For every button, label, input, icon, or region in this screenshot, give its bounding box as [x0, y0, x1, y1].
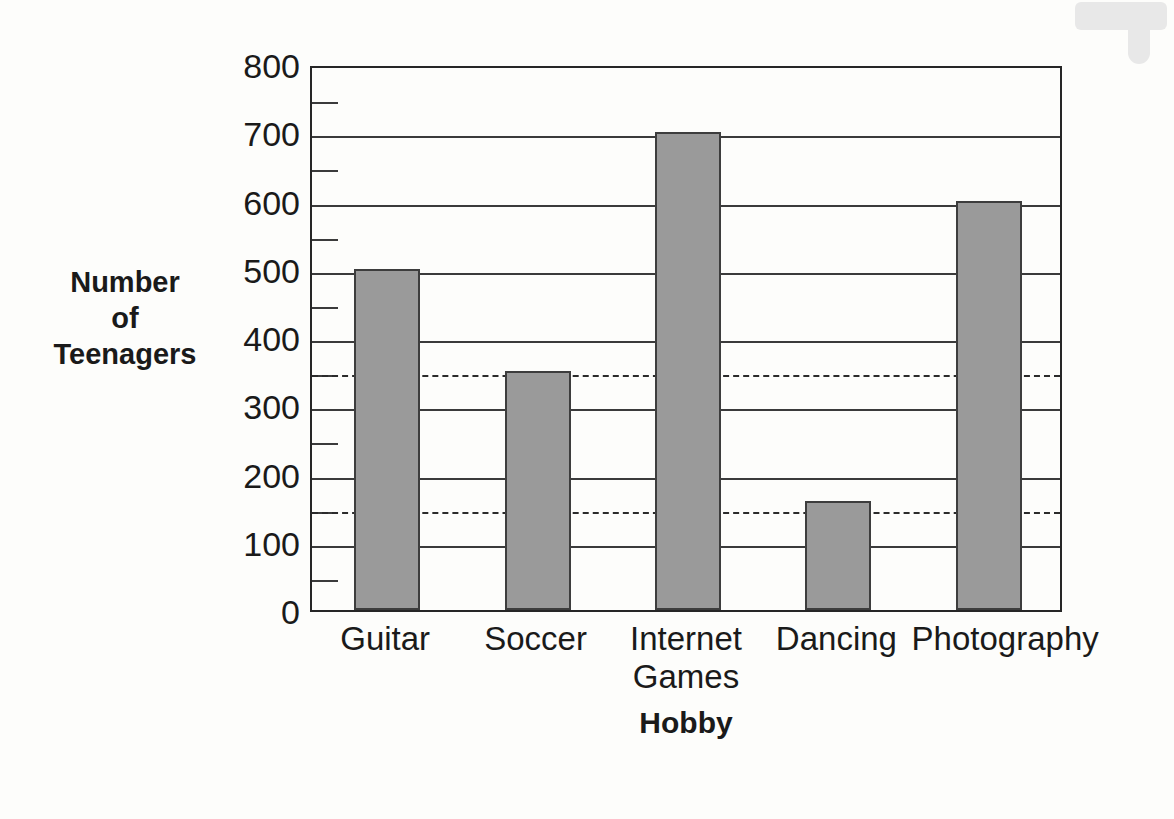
x-axis-category-label-line: Guitar: [310, 620, 460, 658]
y-axis-tick-label: 100: [212, 527, 300, 561]
bar[interactable]: [505, 371, 571, 610]
y-axis-tick-label: 300: [212, 390, 300, 424]
y-axis-tick-label: 200: [212, 459, 300, 493]
x-axis-category-label: Guitar: [310, 620, 460, 658]
y-axis-title: Number of Teenagers: [18, 264, 232, 372]
y-axis-title-line-1: Number: [18, 264, 232, 300]
bar-slot: [655, 68, 721, 610]
bar-slot: [956, 68, 1022, 610]
x-axis-category-label-line: Photography: [912, 620, 1062, 658]
bar[interactable]: [655, 132, 721, 610]
x-axis-category-label-line: Games: [611, 658, 761, 696]
bar-slot: [505, 68, 571, 610]
x-axis-category-label-line: Internet: [611, 620, 761, 658]
y-axis-title-line-3: Teenagers: [18, 336, 232, 372]
bar[interactable]: [354, 269, 420, 610]
y-axis-tick-label: 600: [212, 186, 300, 220]
x-axis-title: Hobby: [310, 706, 1062, 740]
x-axis-category-label: Dancing: [761, 620, 911, 658]
y-axis-tick-label: 400: [212, 322, 300, 356]
bar-slot: [805, 68, 871, 610]
bar[interactable]: [956, 201, 1022, 611]
x-axis-category-label-line: Soccer: [460, 620, 610, 658]
y-axis-tick-label: 800: [212, 49, 300, 83]
bar[interactable]: [805, 501, 871, 610]
x-axis-category-label-line: Dancing: [761, 620, 911, 658]
bars-group: [312, 68, 1060, 610]
y-axis-tick-label: 0: [212, 595, 300, 629]
plot-area: [310, 66, 1062, 612]
bar-slot: [354, 68, 420, 610]
x-axis-category-labels: GuitarSoccerInternetGamesDancingPhotogra…: [310, 620, 1062, 700]
x-axis-category-label: InternetGames: [611, 620, 761, 696]
y-axis-tick-label: 700: [212, 117, 300, 151]
x-axis-category-label: Soccer: [460, 620, 610, 658]
x-axis-category-label: Photography: [912, 620, 1062, 658]
y-axis-tick-labels: 0100200300400500600700800: [212, 0, 300, 819]
y-axis-title-line-2: of: [18, 300, 232, 336]
bar-chart: Number of Teenagers 01002003004005006007…: [0, 0, 1174, 819]
y-axis-tick-label: 500: [212, 254, 300, 288]
